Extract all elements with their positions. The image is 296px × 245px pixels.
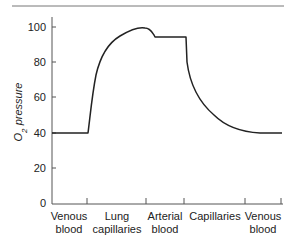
y-tick-60: 60 <box>34 91 46 103</box>
svg-text:blood: blood <box>250 223 277 235</box>
x-ticks <box>87 198 281 204</box>
o2-pressure-curve <box>52 28 282 133</box>
svg-text:capillaries: capillaries <box>93 223 142 235</box>
y-tick-0: 0 <box>40 197 46 209</box>
category-venous-blood-1: Venous <box>51 210 88 222</box>
y-tick-80: 80 <box>34 56 46 68</box>
y-tick-100: 100 <box>28 21 46 33</box>
y-axis-label: O2 pressure <box>12 83 29 142</box>
category-capillaries: Capillaries <box>189 210 241 222</box>
category-lung-capillaries: Lung <box>105 210 129 222</box>
y-tick-20: 20 <box>34 162 46 174</box>
svg-text:blood: blood <box>152 223 179 235</box>
category-arterial-blood: Arterial <box>148 210 183 222</box>
o2-pressure-chart: 100 80 60 40 20 0 O2 pressure Venous blo… <box>0 0 296 245</box>
y-tick-40: 40 <box>34 127 46 139</box>
svg-text:blood: blood <box>56 223 83 235</box>
category-labels: Venous blood Lung capillaries Arterial b… <box>51 210 282 235</box>
category-venous-blood-2: Venous <box>245 210 282 222</box>
